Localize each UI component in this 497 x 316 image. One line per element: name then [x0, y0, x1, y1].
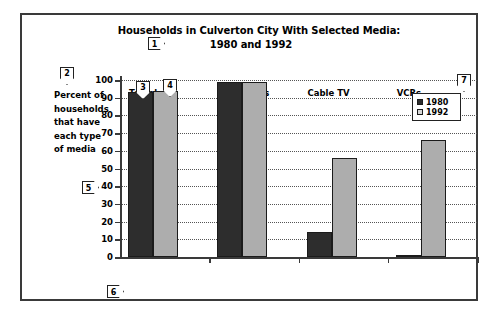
legend-label-1992: 1992 [426, 108, 448, 117]
y-tick-label-100: 100 [95, 75, 113, 85]
y-tick-label-40: 40 [101, 181, 113, 191]
legend[interactable]: 1980 1992 [412, 93, 461, 121]
legend-item-1980[interactable]: 1980 [417, 97, 457, 107]
callout-marker-2[interactable]: 2 [60, 67, 74, 85]
bar-1980-telephone-service [128, 92, 153, 257]
y-tick-label-70: 70 [101, 128, 113, 138]
chart-subtitle: 1980 and 1992 [22, 38, 480, 52]
legend-label-1980: 1980 [426, 98, 448, 107]
legend-swatch-icon-1992 [417, 109, 423, 115]
y-tick-label-80: 80 [101, 110, 113, 120]
y-tick-label-10: 10 [101, 234, 113, 244]
y-tick-label-60: 60 [101, 146, 113, 156]
bar-1980-cable-tv [307, 232, 332, 257]
y-tick-label-50: 50 [101, 164, 113, 174]
chart-title: Households in Culverton City With Select… [22, 24, 480, 52]
y-tick-label-30: 30 [101, 199, 113, 209]
y-tick-label-90: 90 [101, 93, 113, 103]
bar-1980-radio-sets [217, 82, 242, 257]
x-category-label-cable-tv: Cable TV [308, 88, 350, 100]
legend-swatch-icon-1980 [417, 99, 423, 105]
x-tick-1 [209, 257, 211, 263]
y-axis-line [120, 76, 122, 257]
x-tick-3 [388, 257, 390, 263]
bar-1992-telephone-service [153, 91, 178, 257]
legend-item-1992[interactable]: 1992 [417, 107, 457, 117]
bar-1992-vcrs [421, 140, 446, 257]
y-tick-label-20: 20 [101, 217, 113, 227]
x-tick-2 [299, 257, 301, 263]
bar-1980-vcrs [396, 255, 421, 257]
bar-1992-cable-tv [332, 158, 357, 257]
x-tick-4 [477, 257, 479, 263]
y-tick-label-0: 0 [107, 252, 113, 262]
callout-marker-5[interactable]: 5 [82, 181, 99, 194]
bar-1992-radio-sets [242, 82, 267, 257]
chart-title-line-1: Households in Culverton City With Select… [22, 24, 480, 38]
chart-frame: Households in Culverton City With Select… [20, 13, 478, 301]
callout-marker-6[interactable]: 6 [107, 285, 124, 298]
